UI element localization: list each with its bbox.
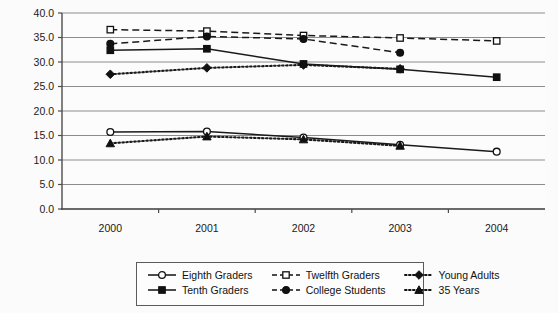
legend-item-label: Eighth Graders: [182, 269, 253, 281]
marker-circle: [397, 49, 404, 56]
data-point-eighth-graders: [107, 129, 114, 136]
x-tick-label: 2001: [195, 222, 218, 234]
data-point-tenth-graders: [204, 46, 210, 52]
chart-legend: Eighth GradersTwelfth GradersYoung Adult…: [136, 262, 424, 306]
x-tick-label: 2003: [388, 222, 411, 234]
legend-marker: [159, 272, 166, 279]
legend-marker: [159, 287, 165, 293]
marker-square: [107, 26, 113, 32]
legend-item-label: Young Adults: [439, 269, 500, 281]
marker-square: [159, 287, 165, 293]
data-point-college-students: [107, 40, 114, 47]
legend-item-twelfth-graders[interactable]: Twelfth Graders: [271, 269, 386, 281]
legend-symbol-filled-square-icon: [147, 284, 177, 296]
legend-marker: [282, 272, 288, 278]
data-point-twelfth-graders: [107, 26, 113, 32]
data-point-college-students: [300, 36, 307, 43]
marker-square: [282, 272, 288, 278]
data-point-twelfth-graders: [494, 38, 500, 44]
marker-circle: [107, 40, 114, 47]
marker-circle: [159, 272, 166, 279]
legend-item-label: Tenth Graders: [182, 284, 249, 296]
marker-square: [107, 47, 113, 53]
data-point-college-students: [397, 49, 404, 56]
marker-square: [494, 74, 500, 80]
legend-item-tenth-graders[interactable]: Tenth Graders: [147, 284, 253, 296]
marker-diamond: [414, 271, 423, 280]
data-point-eighth-graders: [493, 148, 500, 155]
marker-circle: [493, 148, 500, 155]
data-point-tenth-graders: [494, 74, 500, 80]
legend-symbol-filled-triangle-icon: [404, 284, 434, 296]
legend-item-young-adults[interactable]: Young Adults: [404, 269, 500, 281]
line-chart: 0.05.010.015.020.025.030.035.040.0 20002…: [0, 0, 558, 313]
legend-item-label: 35 Years: [439, 284, 480, 296]
legend-marker: [414, 271, 423, 280]
marker-square: [397, 35, 403, 41]
data-point-tenth-graders: [107, 47, 113, 53]
legend-marker: [282, 287, 289, 294]
x-tick-label: 2004: [485, 222, 508, 234]
x-tick-label: 2002: [292, 222, 315, 234]
marker-circle: [204, 33, 211, 40]
legend-symbol-filled-diamond-icon: [404, 269, 434, 281]
legend-symbol-filled-circle-icon: [271, 284, 301, 296]
x-tick-label: 2000: [99, 222, 122, 234]
legend-symbol-open-square-icon: [271, 269, 301, 281]
legend-item-label: College Students: [306, 284, 386, 296]
marker-circle: [282, 287, 289, 294]
marker-circle: [107, 129, 114, 136]
data-point-twelfth-graders: [397, 35, 403, 41]
marker-circle: [300, 36, 307, 43]
legend-item-label: Twelfth Graders: [306, 269, 380, 281]
legend-item-35-years[interactable]: 35 Years: [404, 284, 500, 296]
legend-item-college-students[interactable]: College Students: [271, 284, 386, 296]
data-point-college-students: [204, 33, 211, 40]
marker-square: [204, 46, 210, 52]
legend-item-eighth-graders[interactable]: Eighth Graders: [147, 269, 253, 281]
marker-square: [494, 38, 500, 44]
legend-symbol-open-circle-icon: [147, 269, 177, 281]
